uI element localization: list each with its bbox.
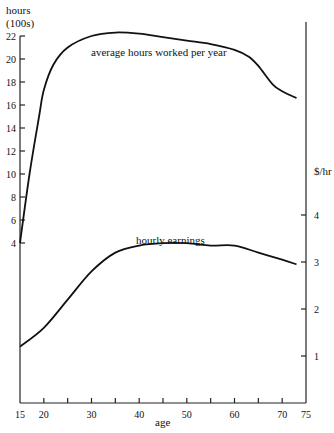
left-axis-tick-label: 4 <box>11 238 16 249</box>
left-axis-unit: (100s) <box>6 17 34 30</box>
x-axis-tick-label: 50 <box>182 409 192 420</box>
series-label-earnings: hourly earnings <box>136 234 205 246</box>
left-axis-tick-label: 8 <box>11 192 16 203</box>
left-axis-tick-label: 20 <box>6 54 16 65</box>
x-axis-tick-label: 30 <box>87 409 97 420</box>
earnings-line <box>20 243 296 347</box>
left-axis-tick-label: 16 <box>6 100 16 111</box>
left-axis-tick-label: 14 <box>6 123 16 134</box>
left-axis-tick-label: 22 <box>6 31 16 42</box>
x-axis-tick-label: 20 <box>39 409 49 420</box>
left-axis-tick-label: 6 <box>11 215 16 226</box>
left-axis-tick-label: 18 <box>6 77 16 88</box>
x-axis-label: age <box>155 416 170 428</box>
labels: hours (100s) $/hr age average hours work… <box>6 4 332 428</box>
x-axis-tick-label: 40 <box>134 409 144 420</box>
right-axis-tick-label: 1 <box>314 351 319 362</box>
x-axis-tick-label: 15 <box>15 409 25 420</box>
left-axis-tick-label: 12 <box>6 146 16 157</box>
right-axis-tick-label: 4 <box>314 210 319 221</box>
series-lines <box>20 32 296 346</box>
axes: 4681012141618202212341520304050607075 <box>6 22 319 420</box>
series-label-hours: average hours worked per year <box>91 46 227 58</box>
right-axis-label: $/hr <box>314 165 332 177</box>
x-axis-tick-label: 70 <box>277 409 287 420</box>
left-axis-tick-label: 10 <box>6 169 16 180</box>
x-axis-tick-label: 60 <box>230 409 240 420</box>
right-axis-tick-label: 2 <box>314 304 319 315</box>
x-axis-tick-label: 75 <box>301 409 311 420</box>
left-axis-label: hours <box>6 4 30 16</box>
hours-line <box>20 32 296 243</box>
right-axis-tick-label: 3 <box>314 257 319 268</box>
chart: 4681012141618202212341520304050607075 ho… <box>0 0 334 433</box>
